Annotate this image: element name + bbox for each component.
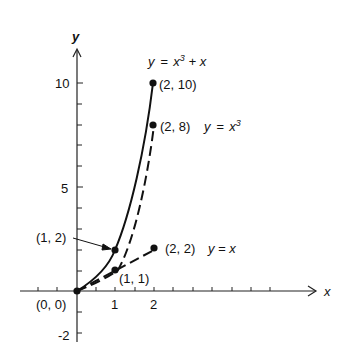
x-tick-2: 2 [150, 297, 157, 312]
origin-label: (0, 0) [36, 297, 66, 312]
point-label-2-2: (2, 2) [165, 241, 195, 256]
x-tick-1: 1 [111, 297, 118, 312]
callout-arrow [73, 238, 111, 250]
point-label-1-2: (1, 2) [36, 230, 66, 245]
curve-cubic-plus-x [77, 83, 153, 291]
y-tick-neg2: -2 [58, 328, 70, 343]
y-tick-5: 5 [61, 181, 68, 196]
point-label-1-1: (1, 1) [119, 271, 149, 286]
x-axis-label: x [323, 284, 331, 299]
y-axis [73, 49, 81, 342]
label-linear: y = x [207, 241, 236, 256]
data-points [73, 79, 157, 294]
label-cubic: y = x3 [203, 118, 241, 134]
y-tick-10: 10 [55, 76, 69, 91]
label-cubic-plus-x: y = x3 + x [147, 49, 207, 69]
point-label-2-10: (2, 10) [159, 77, 197, 92]
x-axis [20, 286, 316, 296]
y-axis-label: y [71, 29, 80, 44]
y-ticks [77, 83, 83, 333]
graph: y x 10 5 -2 1 2 (0, 0) y = x3 + x (2, 10… [0, 0, 344, 360]
point-label-2-8: (2, 8) [160, 119, 190, 134]
